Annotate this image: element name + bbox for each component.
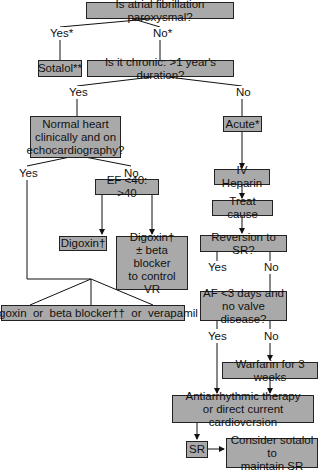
node-digoxin-beta-blocker: Digoxin† ± beta blocker to control VR bbox=[116, 236, 188, 290]
label-paroxysmal-no: No* bbox=[152, 27, 173, 40]
node-treat-cause: Treat cause bbox=[212, 200, 273, 216]
node-sr: SR bbox=[186, 441, 208, 458]
node-warfarin: Warfarin for 3 weeks bbox=[222, 362, 318, 379]
label-normal-yes: Yes bbox=[18, 167, 39, 180]
node-digoxin-or-beta-or-verapamil: Digoxin or beta blocker†† or verapamil bbox=[1, 305, 185, 321]
node-reversion-question: Reversion to SR? bbox=[200, 235, 287, 252]
node-chronic-question: Is it chronic: >1 year's duration? bbox=[87, 60, 234, 77]
node-normal-heart-question: Normal heart clinically and on echocardi… bbox=[30, 116, 121, 158]
label-af-no: No bbox=[263, 330, 280, 343]
label-paroxysmal-yes: Yes* bbox=[49, 27, 74, 40]
node-antiarrhythmic: Antiarrhythmic therapy or direct current… bbox=[172, 395, 314, 423]
label-reversion-yes: Yes bbox=[207, 261, 228, 274]
node-consider-sotalol: Consider sotalol to maintain SR bbox=[226, 438, 318, 468]
node-digoxin: Digoxin† bbox=[59, 236, 107, 251]
label-chronic-no: No bbox=[235, 86, 252, 99]
node-paroxysmal-question: Is atrial fibrillation paroxysmal? bbox=[86, 2, 234, 19]
node-iv-heparin: IV Heparin bbox=[214, 169, 270, 185]
node-sotalol: Sotalol** bbox=[38, 60, 82, 77]
node-af-3-days-question: AF <3 days and no valve disease? bbox=[200, 291, 287, 321]
label-af-yes: Yes bbox=[207, 330, 228, 343]
node-acute: Acute* bbox=[223, 116, 262, 132]
node-ef: EF <40: >40 bbox=[95, 179, 159, 195]
label-reversion-no: No bbox=[263, 261, 280, 274]
label-chronic-yes: Yes bbox=[68, 86, 89, 99]
